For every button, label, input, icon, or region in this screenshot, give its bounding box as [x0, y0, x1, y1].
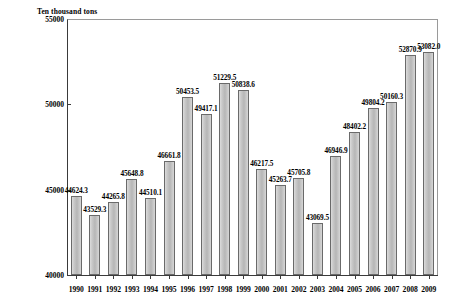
bar-value-label: 46661.8: [158, 151, 181, 160]
x-axis-tick-label: 2002: [291, 285, 306, 294]
x-axis-tick-label: 1996: [180, 285, 195, 294]
y-axis-tick-label: 40000: [0, 271, 67, 280]
bar-value-label: 43069.5: [306, 213, 329, 222]
bar: [405, 55, 416, 275]
bar: [108, 202, 119, 275]
bar: [71, 196, 82, 275]
bar-value-label: 43529.3: [83, 205, 106, 214]
bar-value-label: 46217.5: [250, 159, 273, 168]
x-axis-tick-label: 1995: [161, 285, 176, 294]
bar-chart: Ten thousand tons 40000450005000055000 4…: [0, 0, 458, 308]
x-axis-tick-label: 2009: [421, 285, 436, 294]
y-axis-tick-label: 45000: [0, 185, 67, 194]
x-axis-line: [67, 275, 438, 276]
x-axis-tick-mark: [262, 275, 263, 279]
x-axis-tick-mark: [113, 275, 114, 279]
x-axis-tick-label: 1997: [199, 285, 214, 294]
bar: [368, 108, 379, 275]
x-axis-tick-label: 1998: [217, 285, 232, 294]
bar: [201, 114, 212, 275]
bar-value-label: 44265.8: [102, 192, 125, 201]
bar: [145, 198, 156, 275]
bar: [386, 102, 397, 275]
bar-value-label: 46946.9: [324, 146, 347, 155]
x-axis-tick-label: 1999: [236, 285, 251, 294]
x-axis-tick-mark: [299, 275, 300, 279]
bars-layer: 44624.343529.344265.845648.844510.146661…: [67, 19, 438, 275]
bar-value-label: 48402.2: [343, 122, 366, 131]
x-axis-tick-mark: [150, 275, 151, 279]
x-axis-tick-label: 1992: [106, 285, 121, 294]
bar-value-label: 45648.8: [120, 169, 143, 178]
x-axis-tick-mark: [95, 275, 96, 279]
x-axis-tick-label: 2005: [347, 285, 362, 294]
bar: [330, 156, 341, 275]
x-axis-tick-label: 1993: [124, 285, 139, 294]
x-axis-tick-label: 2001: [273, 285, 288, 294]
x-axis-tick-label: 1990: [69, 285, 84, 294]
bar: [275, 185, 286, 275]
bar: [312, 223, 323, 275]
bar-value-label: 44624.3: [65, 186, 88, 195]
bar: [293, 178, 304, 275]
bar-value-label: 50160.3: [380, 92, 403, 101]
x-axis-tick-mark: [132, 275, 133, 279]
bar: [219, 83, 230, 275]
bar: [89, 215, 100, 275]
x-axis-tick-mark: [188, 275, 189, 279]
x-axis-tick-label: 1991: [87, 285, 102, 294]
bar-value-label: 53082.0: [417, 42, 440, 51]
x-axis-tick-label: 2007: [384, 285, 399, 294]
bar: [182, 97, 193, 275]
bar-value-label: 45705.8: [287, 168, 310, 177]
x-axis-tick-mark: [169, 275, 170, 279]
bar: [423, 52, 434, 275]
x-axis-tick-mark: [392, 275, 393, 279]
bar-value-label: 50838.6: [232, 80, 255, 89]
bar: [256, 169, 267, 275]
x-axis-tick-mark: [373, 275, 374, 279]
bar-value-label: 44510.1: [139, 188, 162, 197]
bar: [126, 179, 137, 275]
bar-value-label: 49417.1: [195, 104, 218, 113]
bar-value-label: 50453.5: [176, 87, 199, 96]
x-axis-tick-mark: [280, 275, 281, 279]
x-axis-tick-mark: [410, 275, 411, 279]
x-axis-tick-mark: [317, 275, 318, 279]
x-axis-tick-mark: [429, 275, 430, 279]
x-axis-tick-mark: [225, 275, 226, 279]
x-axis-tick-label: 2004: [328, 285, 343, 294]
x-axis-tick-mark: [336, 275, 337, 279]
x-axis-tick-mark: [206, 275, 207, 279]
y-axis-tick-label: 55000: [0, 15, 67, 24]
x-axis-tick-mark: [76, 275, 77, 279]
y-axis-tick-label: 50000: [0, 100, 67, 109]
x-axis-tick-label: 1994: [143, 285, 158, 294]
x-axis-tick-label: 2003: [310, 285, 325, 294]
x-axis-tick-mark: [355, 275, 356, 279]
x-axis-tick-mark: [243, 275, 244, 279]
x-axis-tick-label: 2000: [254, 285, 269, 294]
bar: [164, 161, 175, 275]
x-axis-tick-label: 2006: [365, 285, 380, 294]
bar: [238, 90, 249, 275]
x-axis-tick-label: 2008: [403, 285, 418, 294]
bar: [349, 132, 360, 275]
